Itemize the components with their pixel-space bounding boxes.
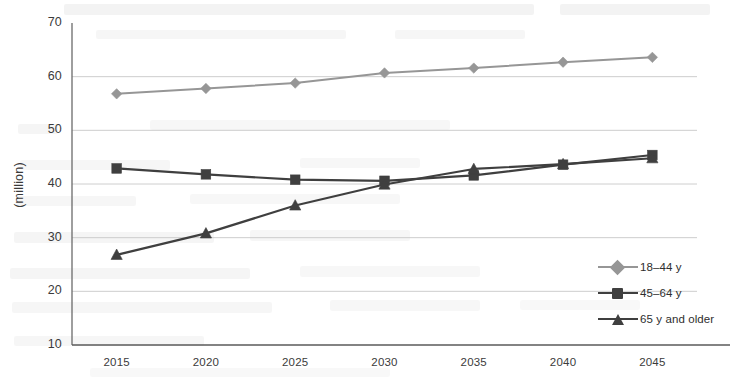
legend-key-triangle bbox=[598, 311, 638, 327]
legend-item-65-older[interactable]: 65 y and older bbox=[598, 310, 714, 327]
y-tick-label: 40 bbox=[28, 176, 62, 190]
x-tick-label: 2015 bbox=[82, 356, 152, 368]
line-chart: (million) 10203040506070 201520202025203… bbox=[0, 0, 734, 383]
x-tick-label: 2045 bbox=[617, 356, 687, 368]
legend-key-square bbox=[598, 285, 638, 301]
legend-label: 45–64 y bbox=[640, 287, 682, 299]
legend-item-45-64[interactable]: 45–64 y bbox=[598, 284, 714, 301]
x-tick-label: 2035 bbox=[439, 356, 509, 368]
x-tick-label: 2025 bbox=[260, 356, 330, 368]
y-tick-label: 50 bbox=[28, 122, 62, 136]
y-tick-label: 30 bbox=[28, 230, 62, 244]
triangle-marker-icon bbox=[612, 314, 624, 325]
legend-label: 65 y and older bbox=[640, 313, 714, 325]
chart-legend: 18–44 y 45–64 y 65 y and older bbox=[598, 258, 714, 327]
x-tick-label: 2030 bbox=[350, 356, 420, 368]
legend-item-18-44[interactable]: 18–44 y bbox=[598, 258, 714, 275]
series-layer bbox=[111, 52, 658, 259]
x-tick-label: 2020 bbox=[171, 356, 241, 368]
y-tick-label: 10 bbox=[28, 337, 62, 351]
square-marker-icon bbox=[612, 288, 623, 299]
x-tick-label: 2040 bbox=[528, 356, 598, 368]
legend-label: 18–44 y bbox=[640, 261, 682, 273]
legend-key-diamond bbox=[598, 259, 638, 275]
y-tick-label: 70 bbox=[28, 15, 62, 29]
y-tick-label: 60 bbox=[28, 69, 62, 83]
y-tick-label: 20 bbox=[28, 283, 62, 297]
diamond-marker-icon bbox=[610, 259, 626, 275]
